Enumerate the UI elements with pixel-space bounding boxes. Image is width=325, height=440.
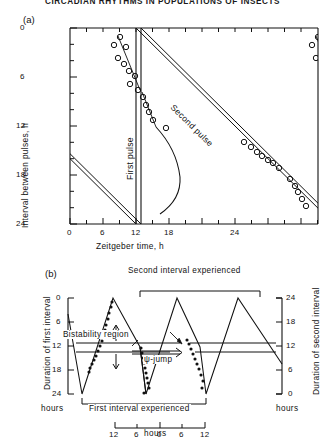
panel-a-x-ticks [70,218,318,224]
trail-line-3 [316,36,325,90]
panel-b-ytick-left-18: 18 [52,365,62,374]
panel-b-ytick-right-18: 18 [286,317,296,326]
panel-b-ytick-left-24: 24 [52,389,62,398]
panel-a-xtick-24: 24 [230,228,240,237]
figure-root: CIRCADIAN RHYTHMS IN POPULATIONS OF INSE… [0,0,325,440]
label-first-interval-experienced: First interval experienced [88,404,191,413]
panel-a-y-ticks [70,28,77,224]
panel-a-ytick-12: 12 [16,121,26,130]
panel-a-plot: First pulse Second pulse [30,20,320,240]
units-right-hours: hours [276,404,298,413]
panel-a-xtick-0: 0 [67,228,72,237]
panel-b-right-ticks [276,298,282,394]
panel-b-ytick-left-12: 12 [52,341,62,350]
panel-b-bottom-ticks [115,422,205,428]
panel-a-ytick-18: 18 [16,170,26,179]
panel-b-ytick-right-12: 12 [286,341,296,350]
units-bottom-hours: hours [144,429,166,438]
panel-b-ytick-left-0: 0 [56,293,61,302]
panel-b-ytick-right-24: 24 [286,293,296,302]
first-pulse-vertical-center [136,28,141,224]
running-head: CIRCADIAN RHYTHMS IN POPULATIONS OF INSE… [0,0,325,8]
cluster-pointer [170,332,182,344]
panel-b-xtick-p12: 12 [200,430,210,439]
annotation-second-pulse: Second pulse [169,102,216,148]
panel-b-ytick-left-6: 6 [56,317,61,326]
panel-b-xtick-n6: 6 [134,430,139,439]
panel-b-plot [20,268,320,440]
panel-a-xlabel: Zeitgeber time, h [96,241,164,251]
panel-a-xtick-6: 6 [100,228,105,237]
label-bistability-region: Bistability region [62,330,130,339]
panel-b-ytick-right-6: 6 [288,365,293,374]
annotation-first-pulse: First pulse [125,137,135,180]
panel-b-xtick-p6: 6 [179,430,184,439]
units-left-hours: hours [41,404,63,413]
panel-a-top-ticks [87,28,302,32]
response-curve-center [156,127,180,214]
panel-a-ytick-0: 0 [20,23,25,32]
bistability-arrow-down [113,354,119,369]
panel-a-ytick-6: 6 [20,72,25,81]
panel-a-ytick-24: 24 [16,219,26,228]
panel-b-data-points [87,300,204,394]
panel-b-xtick-n12: 12 [109,430,119,439]
panel-a-xtick-18: 18 [164,228,174,237]
panel-b-ytick-right-0: 0 [288,389,293,398]
bracket-second-interval [140,291,260,297]
panel-a-xtick-12: 12 [131,228,141,237]
label-psi-jump: ψ-jump [143,355,173,364]
label-second-interval-experienced: Second interval experienced [127,266,242,275]
